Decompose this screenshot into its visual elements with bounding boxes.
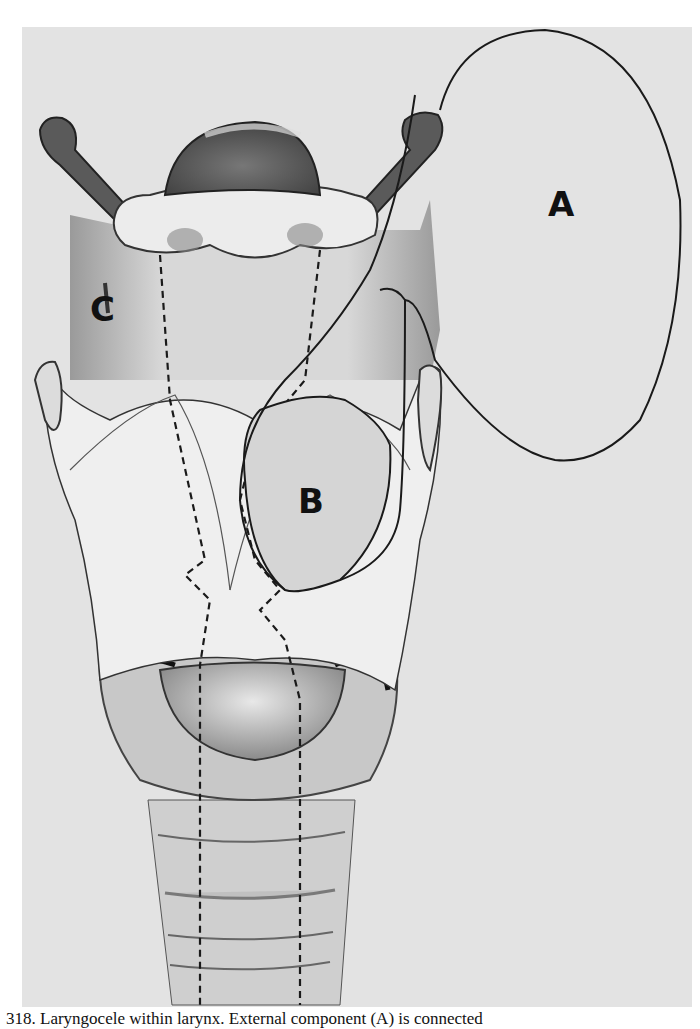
hyoid-body <box>114 186 378 258</box>
label-b: B <box>298 484 324 518</box>
label-c: C <box>90 292 115 326</box>
hyoid-right-greater-horn <box>360 112 442 215</box>
external-laryngocele-outline <box>405 30 681 461</box>
thyroid-cartilage <box>35 362 441 690</box>
thyroid-left-superior-horn <box>35 362 62 430</box>
trachea <box>148 800 355 1005</box>
cricoid-cartilage <box>100 650 398 800</box>
label-a: A <box>548 187 574 221</box>
figure-caption: 318. Laryngocele within larynx. External… <box>6 1009 700 1029</box>
